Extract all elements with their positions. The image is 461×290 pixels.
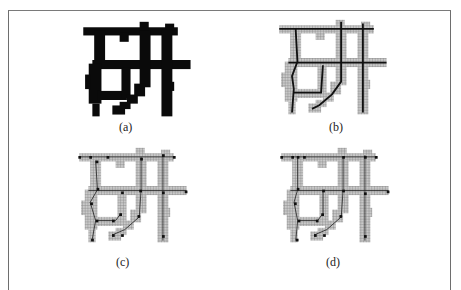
character-glyph [83,22,190,117]
panel-d-image [274,146,394,246]
panel-c-image [72,146,192,246]
panel-b-label: (b) [329,120,343,135]
panel-d-label: (d) [326,255,340,270]
panel-c-label: (c) [116,255,129,270]
panel-b-image [272,18,392,118]
panel-a-label: (a) [119,120,132,135]
panel-a-image [76,20,196,120]
